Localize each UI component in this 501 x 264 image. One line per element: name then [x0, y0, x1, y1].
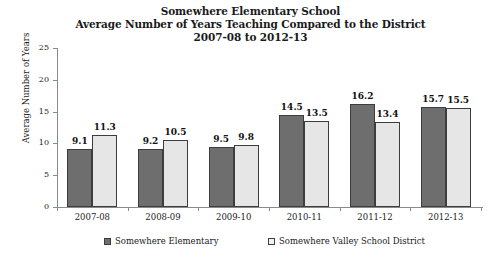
- x-axis-tick: [481, 207, 482, 211]
- bar: [138, 149, 163, 208]
- y-axis-tick-label: 10: [0, 139, 49, 147]
- bar-group: 9.111.3: [67, 48, 117, 207]
- chart-legend: Somewhere ElementarySomewhere Valley Sch…: [0, 236, 501, 250]
- legend-swatch-icon: [268, 238, 275, 245]
- bar-group: 9.59.8: [209, 48, 259, 207]
- x-axis-tick: [410, 207, 411, 211]
- bar: [163, 140, 188, 207]
- bar: [67, 149, 92, 207]
- bar: [375, 122, 400, 207]
- x-axis-category-label: 2007-08: [57, 212, 128, 222]
- x-axis-category-label: 2012-13: [410, 212, 481, 222]
- y-axis-tick-label: 5: [0, 171, 49, 179]
- bar-value-label: 16.2: [344, 92, 381, 101]
- bar-group: 16.213.4: [350, 48, 400, 207]
- bar: [279, 115, 304, 207]
- x-axis-category-label: 2009-10: [198, 212, 269, 222]
- bar: [304, 121, 329, 207]
- x-axis-tick: [198, 207, 199, 211]
- chart-title-line-3: 2007-08 to 2012-13: [0, 31, 501, 44]
- y-axis-tick-label: 15: [0, 108, 49, 116]
- chart-title: Somewhere Elementary School Average Numb…: [0, 5, 501, 45]
- bar-group: 15.715.5: [421, 48, 471, 207]
- chart-title-line-2: Average Number of Years Teaching Compare…: [0, 18, 501, 31]
- bar-group: 14.513.5: [279, 48, 329, 207]
- y-axis-tick-label: 0: [0, 203, 49, 211]
- x-axis-tick: [128, 207, 129, 211]
- bar-group: 9.210.5: [138, 48, 188, 207]
- legend-item[interactable]: Somewhere Valley School District: [268, 236, 425, 246]
- x-axis-tick: [269, 207, 270, 211]
- chart-title-line-1: Somewhere Elementary School: [0, 5, 501, 18]
- bar: [446, 108, 471, 207]
- bar: [421, 107, 446, 207]
- legend-label: Somewhere Elementary: [115, 236, 218, 246]
- bar-chart: Somewhere Elementary School Average Numb…: [0, 0, 501, 264]
- legend-item[interactable]: Somewhere Elementary: [104, 236, 218, 246]
- x-axis-tick: [340, 207, 341, 211]
- bar-value-label: 13.5: [298, 109, 335, 118]
- bar: [234, 145, 259, 207]
- bar: [209, 147, 234, 207]
- x-axis-category-label: 2011-12: [340, 212, 411, 222]
- x-axis-line: [57, 207, 483, 208]
- y-axis-tick-label: 25: [0, 44, 49, 52]
- x-axis-category-label: 2008-09: [128, 212, 199, 222]
- plot-area: 9.111.39.210.59.59.814.513.516.213.415.7…: [57, 48, 481, 207]
- bar: [92, 135, 117, 207]
- y-axis-title: Average Number of Years: [21, 18, 31, 158]
- y-axis-tick-label: 20: [0, 76, 49, 84]
- bar-value-label: 9.8: [228, 133, 265, 142]
- x-axis-category-label: 2010-11: [269, 212, 340, 222]
- bar: [350, 104, 375, 207]
- legend-swatch-icon: [104, 238, 111, 245]
- bar-value-label: 15.5: [440, 96, 477, 105]
- legend-label: Somewhere Valley School District: [279, 236, 425, 246]
- bar-value-label: 11.3: [86, 123, 123, 132]
- bar-value-label: 10.5: [157, 128, 194, 137]
- x-axis-tick: [57, 207, 58, 211]
- bar-value-label: 13.4: [369, 110, 406, 119]
